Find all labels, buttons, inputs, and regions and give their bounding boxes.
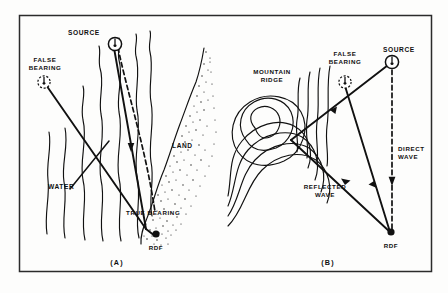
- panel-tag-b: (B): [321, 258, 334, 267]
- rdf-node-a: [152, 230, 159, 237]
- label-false-bearing-b-line2: BEARING: [329, 58, 362, 65]
- true-bearing-midarrow: [128, 143, 135, 152]
- label-source-a: SOURCE: [68, 29, 100, 36]
- panel-tag-a: (A): [110, 258, 123, 267]
- false-bearing-ray: [44, 82, 146, 229]
- rdf-node-b: [387, 228, 394, 235]
- label-mountain-ridge-line1: MOUNTAIN: [253, 68, 291, 75]
- false-bearing-node-b: [339, 76, 351, 88]
- label-direct-wave-line1: DIRECT: [398, 145, 425, 152]
- label-false-bearing-b-line1: FALSE: [334, 50, 357, 57]
- label-rdf-b: RDF: [384, 242, 399, 249]
- reflected-wave-incident: [291, 62, 392, 140]
- label-water: WATER: [48, 183, 74, 190]
- label-rdf-a: RDF: [149, 244, 164, 251]
- label-false-bearing-a-line2: BEARING: [29, 64, 62, 71]
- label-mountain-ridge-line2: RIDGE: [261, 76, 284, 83]
- refracted-wave-path: [118, 48, 155, 212]
- figure-frame: [20, 16, 432, 272]
- label-direct-wave-line2: WAVE: [398, 153, 418, 160]
- false-bearing-node-a: [38, 76, 50, 88]
- label-source-b: SOURCE: [383, 46, 415, 53]
- label-reflected-wave-line2: WAVE: [315, 191, 335, 198]
- direct-wave-arrowhead: [389, 177, 396, 186]
- mountain-ridge-contours: [228, 66, 330, 226]
- label-reflected-wave-line1: REFLECTED: [304, 183, 347, 190]
- source-node-b: [385, 55, 398, 68]
- label-land: LAND: [172, 142, 193, 149]
- panel-b: MOUNTAIN RIDGE FALSE BEARING SOURCE REFL…: [228, 46, 425, 267]
- figure-container: SOURCE FALSE BEARING WATER LAND TRUE BEA…: [0, 0, 448, 293]
- label-true-bearing: TRUE BEARING: [126, 209, 180, 216]
- label-false-bearing-a-line1: FALSE: [34, 56, 57, 63]
- rdf-bearing-diagram: SOURCE FALSE BEARING WATER LAND TRUE BEA…: [0, 0, 448, 293]
- source-node-a: [108, 37, 121, 50]
- panel-a: SOURCE FALSE BEARING WATER LAND TRUE BEA…: [29, 29, 217, 267]
